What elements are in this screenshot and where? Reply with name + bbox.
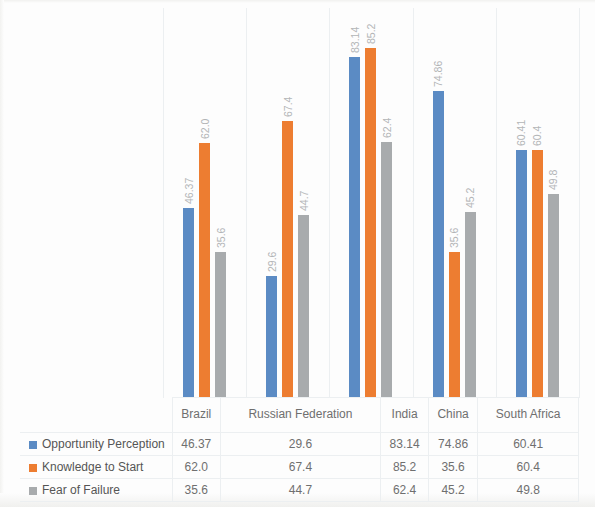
legend-swatch-icon xyxy=(29,464,37,472)
table-column-header: Brazil xyxy=(173,398,221,433)
bar[interactable]: 83.14 xyxy=(349,57,360,398)
table-cell-value: 60.4 xyxy=(478,456,579,479)
table-header: BrazilRussian FederationIndiaChinaSouth … xyxy=(20,398,579,433)
bar-value-label: 60.4 xyxy=(531,126,543,146)
data-table: BrazilRussian FederationIndiaChinaSouth … xyxy=(20,397,579,502)
bar-group: 46.3762.035.6 xyxy=(163,8,246,398)
bar[interactable]: 74.86 xyxy=(433,91,444,398)
bar-value-label: 85.2 xyxy=(365,24,377,44)
bar-value-label: 29.6 xyxy=(266,252,278,272)
bar[interactable]: 67.4 xyxy=(282,121,293,398)
bar-group: 60.4160.449.8 xyxy=(496,8,579,398)
bar[interactable]: 62.0 xyxy=(199,143,210,398)
plot-column-divider xyxy=(579,8,580,398)
table-cell-value: 35.6 xyxy=(428,456,478,479)
table-cell-value: 62.0 xyxy=(173,456,221,479)
table-row: Opportunity Perception46.3729.683.1474.8… xyxy=(20,433,579,456)
bar[interactable]: 46.37 xyxy=(183,208,194,398)
bar-value-label: 44.7 xyxy=(298,190,310,210)
table-body: Opportunity Perception46.3729.683.1474.8… xyxy=(20,433,579,502)
legend-swatch-icon xyxy=(29,487,37,495)
table-corner-cell xyxy=(20,398,173,433)
table-cell-value: 45.2 xyxy=(428,479,478,502)
bar-value-label: 62.4 xyxy=(381,117,393,137)
bar-value-label: 74.86 xyxy=(432,60,444,86)
table-row: Knowledge to Start62.067.485.235.660.4 xyxy=(20,456,579,479)
bar-value-label: 35.6 xyxy=(448,227,460,247)
table-row: Fear of Failure35.644.762.445.249.8 xyxy=(20,479,579,502)
bar[interactable]: 60.4 xyxy=(532,150,543,398)
table-cell-value: 49.8 xyxy=(478,479,579,502)
bar[interactable]: 49.8 xyxy=(548,194,559,398)
bar[interactable]: 29.6 xyxy=(266,276,277,398)
legend-swatch-icon xyxy=(29,441,37,449)
bar[interactable]: 44.7 xyxy=(298,215,309,399)
legend-entry[interactable]: Knowledge to Start xyxy=(20,456,173,479)
table-cell-value: 44.7 xyxy=(220,479,381,502)
table-column-header: India xyxy=(381,398,429,433)
legend-label: Knowledge to Start xyxy=(42,460,143,474)
legend-label: Opportunity Perception xyxy=(42,437,165,451)
page-edge-top xyxy=(0,0,595,3)
table-cell-value: 46.37 xyxy=(173,433,221,456)
bar-value-label: 45.2 xyxy=(464,188,476,208)
bar[interactable]: 45.2 xyxy=(465,212,476,398)
table-cell-value: 74.86 xyxy=(428,433,478,456)
table-cell-value: 60.41 xyxy=(478,433,579,456)
bar-value-label: 60.41 xyxy=(515,120,527,146)
table-cell-value: 83.14 xyxy=(381,433,429,456)
bar-value-label: 46.37 xyxy=(183,177,195,203)
bar[interactable]: 85.2 xyxy=(365,48,376,398)
bar-group: 83.1485.262.4 xyxy=(329,8,412,398)
bar-value-label: 67.4 xyxy=(282,97,294,117)
legend-label: Fear of Failure xyxy=(42,483,120,497)
chart-container: 46.3762.035.629.667.444.783.1485.262.474… xyxy=(0,0,595,507)
table-cell-value: 85.2 xyxy=(381,456,429,479)
legend-entry[interactable]: Opportunity Perception xyxy=(20,433,173,456)
legend-entry[interactable]: Fear of Failure xyxy=(20,479,173,502)
bar[interactable]: 35.6 xyxy=(215,252,226,398)
bar-value-label: 62.0 xyxy=(199,119,211,139)
plot-area: 46.3762.035.629.667.444.783.1485.262.474… xyxy=(163,8,579,398)
table-header-row: BrazilRussian FederationIndiaChinaSouth … xyxy=(20,398,579,433)
table-cell-value: 35.6 xyxy=(173,479,221,502)
bar[interactable]: 62.4 xyxy=(381,142,392,398)
table-column-header: South Africa xyxy=(478,398,579,433)
table-cell-value: 67.4 xyxy=(220,456,381,479)
page-edge-left xyxy=(0,0,4,507)
bar[interactable]: 35.6 xyxy=(449,252,460,398)
bar-group: 74.8635.645.2 xyxy=(413,8,496,398)
bar[interactable]: 60.41 xyxy=(516,150,527,398)
bar-group: 29.667.444.7 xyxy=(246,8,329,398)
bar-value-label: 49.8 xyxy=(547,169,559,189)
bar-value-label: 35.6 xyxy=(215,227,227,247)
bar-value-label: 83.14 xyxy=(349,26,361,52)
table-cell-value: 62.4 xyxy=(381,479,429,502)
table-cell-value: 29.6 xyxy=(220,433,381,456)
table-column-header: Russian Federation xyxy=(220,398,381,433)
table-column-header: China xyxy=(428,398,478,433)
